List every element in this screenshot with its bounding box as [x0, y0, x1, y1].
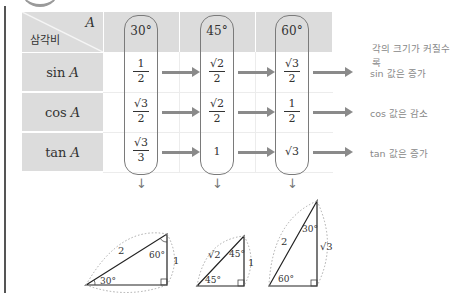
svg-text:60°: 60° — [149, 250, 165, 260]
svg-text:45°: 45° — [229, 249, 245, 259]
svg-text:1: 1 — [173, 255, 179, 266]
svg-text:√2: √2 — [208, 249, 221, 260]
svg-text:60°: 60° — [278, 274, 294, 284]
svg-text:1: 1 — [248, 257, 254, 268]
svg-text:30°: 30° — [100, 276, 116, 286]
triangle-30: 30° 60° 2 1 — [86, 233, 179, 293]
triangle-45: 45° 45° √2 1 — [197, 236, 254, 286]
svg-text:√3: √3 — [320, 241, 333, 252]
triangles-diagram: 30° 60° 2 1 45° 45° √2 1 60° 30° 2 √3 — [0, 0, 458, 293]
svg-text:2: 2 — [118, 245, 124, 256]
svg-text:45°: 45° — [205, 275, 221, 285]
svg-text:30°: 30° — [302, 224, 318, 234]
svg-text:2: 2 — [281, 236, 287, 247]
triangle-60: 60° 30° 2 √3 — [269, 201, 333, 286]
